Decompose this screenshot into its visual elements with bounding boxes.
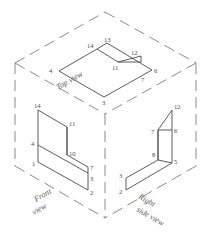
front-view-outline bbox=[38, 110, 88, 190]
drawing-canvas: 4 14 13 12 11 6 7 3 Top view 14 11 4 10 … bbox=[0, 0, 211, 242]
top-view-outline bbox=[59, 43, 152, 97]
top-label-6: 6 bbox=[154, 67, 158, 74]
top-view-caption: Top view bbox=[55, 69, 85, 92]
top-label-14: 14 bbox=[87, 42, 94, 49]
front-label-10: 10 bbox=[69, 150, 76, 157]
right-label-6: 6 bbox=[174, 127, 178, 134]
right-label-5: 5 bbox=[174, 158, 178, 165]
top-label-11: 11 bbox=[112, 64, 118, 71]
front-view-step-line bbox=[38, 145, 88, 173]
right-view-geometry bbox=[126, 110, 172, 190]
top-label-4: 4 bbox=[49, 67, 53, 74]
right-view-outline bbox=[126, 110, 172, 190]
right-label-3: 3 bbox=[119, 172, 123, 179]
right-view-lower-tie bbox=[158, 160, 172, 163]
front-label-1: 1 bbox=[32, 160, 35, 167]
top-label-3: 3 bbox=[102, 99, 106, 106]
right-label-8: 8 bbox=[152, 151, 156, 158]
right-view-caption-line2: side view bbox=[135, 205, 166, 228]
front-label-7: 7 bbox=[90, 164, 94, 171]
box-edge-top-left bbox=[15, 12, 105, 63]
box-edge-top-right bbox=[105, 12, 196, 63]
top-view-labels: 4 14 13 12 11 6 7 3 bbox=[49, 36, 158, 106]
front-label-11: 11 bbox=[69, 120, 75, 127]
front-view-geometry bbox=[38, 110, 88, 190]
right-label-2: 2 bbox=[119, 188, 122, 195]
front-label-4: 4 bbox=[31, 140, 35, 147]
top-label-13: 13 bbox=[104, 36, 111, 43]
front-view-labels: 14 11 4 10 1 7 3 2 bbox=[31, 102, 94, 196]
front-view-caption-line2: view bbox=[31, 201, 49, 217]
front-label-14: 14 bbox=[34, 102, 41, 109]
top-label-7: 7 bbox=[141, 76, 145, 83]
right-label-12: 12 bbox=[174, 103, 181, 110]
isometric-drawing: 4 14 13 12 11 6 7 3 Top view 14 11 4 10 … bbox=[0, 0, 211, 242]
right-view-labels: 12 6 7 8 5 3 2 bbox=[119, 103, 181, 195]
top-view-geometry bbox=[59, 43, 152, 97]
right-label-7: 7 bbox=[151, 128, 155, 135]
top-label-12: 12 bbox=[131, 49, 138, 56]
front-label-2: 2 bbox=[90, 189, 93, 196]
front-label-3: 3 bbox=[90, 175, 94, 182]
